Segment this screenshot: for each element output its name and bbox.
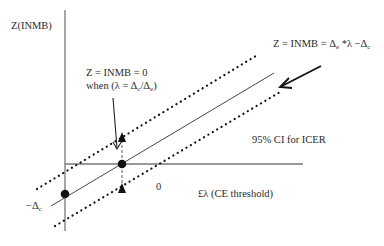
origin-label: 0 [156, 181, 161, 193]
upper-ci-triangle-icon [118, 132, 126, 142]
lower-ci-line [55, 92, 280, 226]
intercept-point [61, 190, 70, 199]
arrow-down-icon [113, 141, 122, 149]
ci-label: 95% CI for ICER [252, 134, 326, 146]
breakeven-point [118, 160, 127, 169]
icer-diagram [0, 0, 384, 246]
inmb-line [51, 73, 274, 206]
equation-label: Z = INMB = Δe *λ −Δc [273, 38, 370, 53]
y-axis-label: Z(INMB) [11, 20, 52, 32]
zero-annotation-line2: when (λ = Δc/Δe) [86, 80, 157, 95]
upper-ci-line [37, 54, 259, 189]
x-axis-label: £λ (CE threshold) [198, 188, 273, 200]
equation-pointer [282, 66, 321, 86]
zero-annotation-line1: Z = INMB = 0 [86, 67, 147, 79]
intercept-label: −Δc [26, 200, 42, 215]
